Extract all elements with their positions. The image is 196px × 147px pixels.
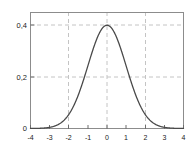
x-axis-tick-labels: -4 -3 -2 -1 0 1 2 3 4 xyxy=(27,134,185,141)
ytick-label-0: 0 xyxy=(23,124,27,133)
xtick-label-1: 1 xyxy=(124,134,128,141)
xtick-label--1: -1 xyxy=(85,134,91,141)
gaussian-curve-plot: -4 -3 -2 -1 0 1 2 3 4 0 0,2 0,4 xyxy=(0,0,196,147)
xtick-label-2: 2 xyxy=(144,134,148,141)
chart-figure: -4 -3 -2 -1 0 1 2 3 4 0 0,2 0,4 xyxy=(0,0,196,147)
xtick-label-0: 0 xyxy=(105,134,109,141)
xtick-label--3: -3 xyxy=(46,134,52,141)
ytick-label-0.2: 0,2 xyxy=(17,73,27,82)
xtick-label-3: 3 xyxy=(163,134,167,141)
xtick-label--2: -2 xyxy=(65,134,71,141)
xtick-label-4: 4 xyxy=(182,134,186,141)
xtick-label--4: -4 xyxy=(27,134,33,141)
ytick-label-0.4: 0,4 xyxy=(17,21,27,30)
